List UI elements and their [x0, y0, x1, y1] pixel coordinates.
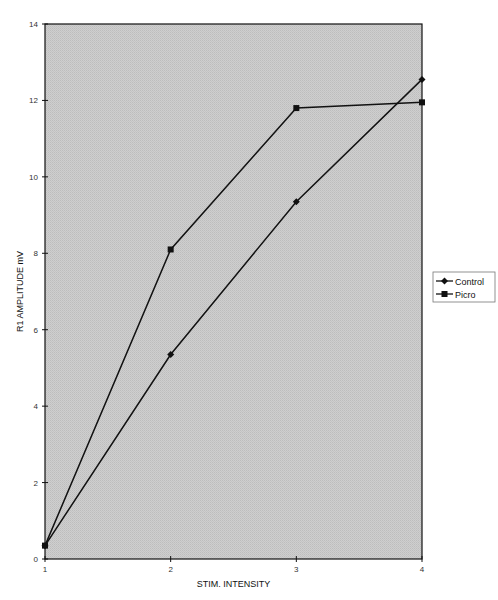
- data-point-picro: [293, 105, 299, 111]
- x-tick-label: 4: [420, 565, 425, 574]
- legend-marker-square-icon: [442, 291, 448, 297]
- x-axis-title: STIM. INTENSITY: [197, 579, 271, 589]
- y-tick-label: 4: [34, 402, 39, 411]
- line-chart: 024681012141234 STIM. INTENSITY R1 AMPLI…: [0, 0, 498, 600]
- x-tick-label: 3: [294, 565, 299, 574]
- y-tick-label: 10: [29, 173, 38, 182]
- legend-label: Picro: [455, 290, 476, 300]
- y-tick-label: 8: [34, 249, 39, 258]
- x-tick-label: 2: [168, 565, 173, 574]
- y-tick-label: 14: [29, 20, 38, 29]
- data-point-picro: [168, 246, 174, 252]
- data-point-picro: [42, 543, 48, 549]
- y-tick-label: 0: [34, 555, 39, 564]
- data-point-picro: [419, 99, 425, 105]
- legend: ControlPicro: [433, 272, 495, 302]
- x-tick-label: 1: [43, 565, 48, 574]
- y-tick-label: 2: [34, 479, 39, 488]
- legend-label: Control: [455, 277, 484, 287]
- y-axis-title: R1 AMPLITUDE mV: [15, 251, 25, 332]
- y-tick-label: 6: [34, 326, 39, 335]
- y-tick-label: 12: [29, 96, 38, 105]
